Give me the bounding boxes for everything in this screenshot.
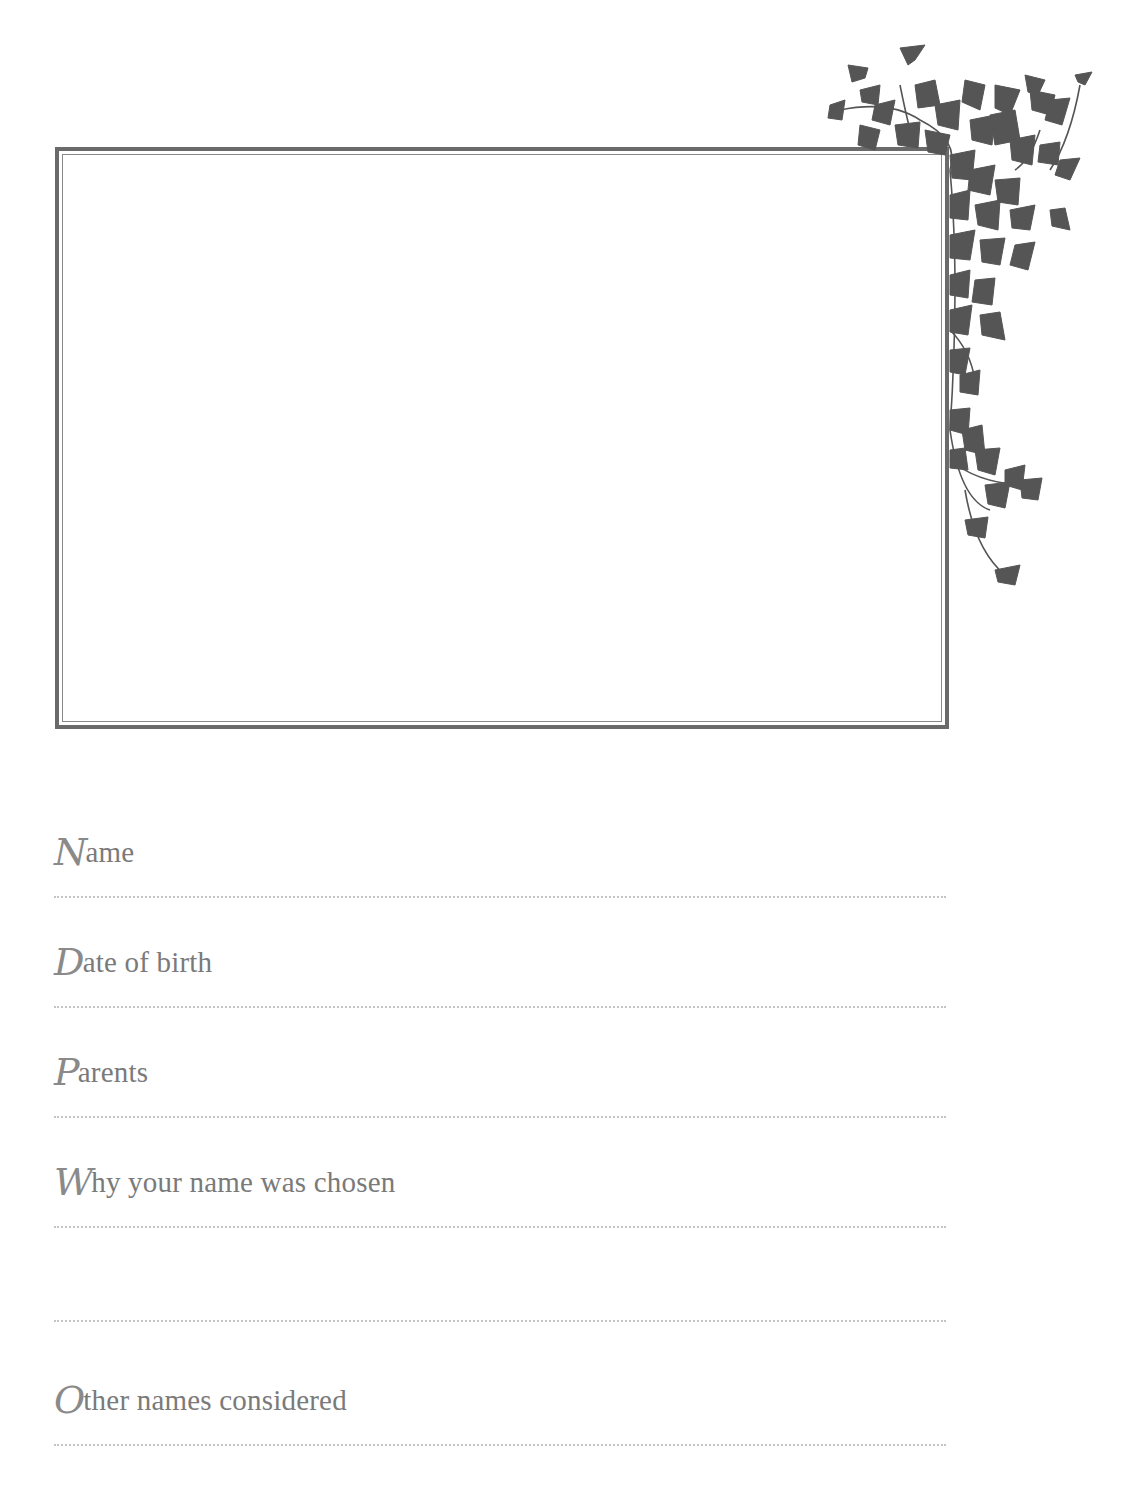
field-parents-label: Parents <box>54 1050 148 1088</box>
why-name-chosen-continuation-input[interactable] <box>54 1290 950 1320</box>
field-why-name-chosen-label-rest: hy your name was chosen <box>91 1166 395 1198</box>
parents-input[interactable] <box>54 1086 950 1116</box>
date-of-birth-dotted-line <box>54 1006 946 1008</box>
photo-frame[interactable] <box>55 147 949 729</box>
photo-area[interactable] <box>62 154 942 722</box>
date-of-birth-input[interactable] <box>54 976 950 1006</box>
parents-dotted-line <box>54 1116 946 1118</box>
field-name-label-rest: ame <box>85 836 134 868</box>
field-why-name-chosen-label: Why your name was chosen <box>54 1160 395 1198</box>
why-name-chosen-continuation-line <box>54 1320 946 1322</box>
field-name-label: Name <box>54 830 134 868</box>
why-name-chosen-input[interactable] <box>54 1196 950 1226</box>
keepsake-page: Name Date of birth Parents Why your name… <box>0 0 1128 1495</box>
field-other-names-label: Other names considered <box>54 1378 347 1416</box>
other-names-input[interactable] <box>54 1414 950 1444</box>
name-input[interactable] <box>54 866 950 896</box>
field-date-of-birth-label: Date of birth <box>54 940 212 978</box>
field-parents-label-rest: arents <box>78 1056 148 1088</box>
other-names-dotted-line <box>54 1444 946 1446</box>
field-date-of-birth-label-rest: ate of birth <box>83 946 213 978</box>
why-name-chosen-dotted-line <box>54 1226 946 1228</box>
field-other-names-label-rest: ther names considered <box>83 1384 347 1416</box>
name-dotted-line <box>54 896 946 898</box>
